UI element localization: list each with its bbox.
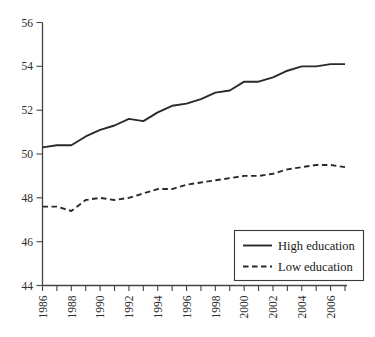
x-tick-label-1998: 1998 (210, 295, 222, 318)
line-chart: 56 54 52 50 48 46 44 1986198819901992199… (0, 0, 375, 337)
y-tick-label-52: 52 (22, 104, 34, 116)
legend: High education Low education (235, 231, 364, 281)
x-axis-labels: 1986198819901992199419961998200020022004… (37, 295, 337, 318)
y-tick-label-54: 54 (22, 60, 34, 72)
y-tick-label-50: 50 (22, 148, 34, 160)
y-tick-label-46: 46 (22, 236, 34, 248)
x-tick-label-1990: 1990 (94, 295, 106, 318)
y-axis-ticks: 56 54 52 50 48 46 44 (22, 17, 43, 292)
x-tick-label-1986: 1986 (37, 295, 49, 318)
chart-svg: 56 54 52 50 48 46 44 1986198819901992199… (0, 0, 375, 337)
x-tick-label-2006: 2006 (325, 295, 337, 318)
x-tick-label-1992: 1992 (123, 295, 135, 318)
x-tick-label-2002: 2002 (267, 295, 279, 318)
x-tick-label-1996: 1996 (181, 295, 193, 318)
y-tick-label-48: 48 (22, 192, 34, 204)
x-tick-label-2004: 2004 (296, 295, 308, 318)
legend-label-low-education: Low education (278, 260, 353, 274)
series-line-high-education (43, 64, 346, 147)
legend-label-high-education: High education (278, 239, 355, 253)
x-tick-label-1988: 1988 (66, 295, 78, 318)
x-axis-ticks (43, 286, 346, 292)
series-line-low-education (43, 165, 346, 211)
x-tick-label-1994: 1994 (152, 295, 164, 318)
x-tick-label-2000: 2000 (238, 295, 250, 318)
y-tick-label-44: 44 (22, 280, 34, 292)
y-tick-label-56: 56 (22, 17, 34, 29)
